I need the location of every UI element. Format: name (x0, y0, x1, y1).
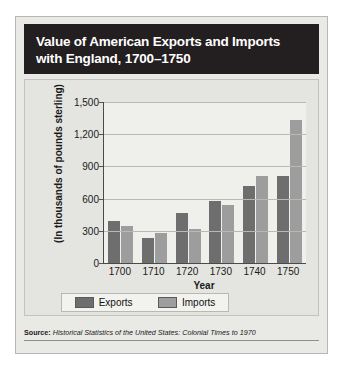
chart-title-bar: Value of American Exports and Imports wi… (24, 24, 319, 74)
legend-label-imports: Imports (182, 297, 215, 308)
x-axis-tick-label: 1730 (204, 266, 238, 277)
legend-label-exports: Exports (99, 297, 133, 308)
bar-group (108, 102, 133, 263)
bar-exports-1740 (243, 186, 255, 263)
bar-imports-1720 (189, 229, 201, 263)
bar-group (176, 102, 201, 263)
y-axis-tick-label: 300 (57, 225, 99, 236)
source-text: Historical Statistics of the United Stat… (53, 328, 256, 337)
chart-card: Value of American Exports and Imports wi… (15, 16, 328, 354)
page-title: Value of American Exports and Imports wi… (36, 33, 307, 67)
bar-imports-1710 (155, 233, 167, 263)
bar-exports-1750 (277, 176, 289, 263)
bar-imports-1730 (222, 205, 234, 263)
x-axis-tick-label: 1720 (170, 266, 204, 277)
legend-item-exports: Exports (75, 297, 133, 308)
x-axis-tick-labels: 170017101720173017401750 (103, 266, 305, 277)
legend-swatch-exports (75, 297, 94, 308)
chart-legend: Exports Imports (61, 293, 229, 312)
source-note: Source: Historical Statistics of the Uni… (24, 328, 319, 337)
source-label: Source: (24, 328, 51, 337)
y-axis-tick-label: 600 (57, 193, 99, 204)
bar-exports-1700 (108, 221, 120, 263)
y-axis-tick-label: 1,500 (57, 97, 99, 108)
gridline (104, 102, 306, 103)
y-axis-tick-label: 900 (57, 161, 99, 172)
gridline (104, 199, 306, 200)
bottom-rule (24, 340, 319, 341)
y-axis-tick-labels: 03006009001,2001,500 (55, 102, 99, 263)
bar-group (209, 102, 234, 263)
bar-group (142, 102, 167, 263)
legend-swatch-imports (158, 297, 177, 308)
y-axis-tick-label: 0 (57, 258, 99, 269)
bar-exports-1720 (176, 213, 188, 263)
x-axis-tick-label: 1750 (271, 266, 305, 277)
bar-imports-1750 (290, 120, 302, 263)
gridline (104, 166, 306, 167)
bar-exports-1730 (209, 201, 221, 263)
x-axis-tick-label: 1710 (137, 266, 171, 277)
plot-panel: (In thousands of pounds sterling) 030060… (24, 79, 319, 316)
bar-exports-1710 (142, 238, 154, 263)
plot-area (103, 102, 306, 264)
bar-group (277, 102, 302, 263)
gridline (104, 134, 306, 135)
y-axis-tick-label: 1,200 (57, 129, 99, 140)
bar-groups (104, 102, 306, 263)
legend-item-imports: Imports (158, 297, 215, 308)
x-axis-tick-label: 1740 (238, 266, 272, 277)
bar-imports-1740 (256, 176, 268, 263)
gridline (104, 231, 306, 232)
bar-group (243, 102, 268, 263)
x-axis-title: Year (103, 280, 305, 291)
x-axis-tick-label: 1700 (103, 266, 137, 277)
